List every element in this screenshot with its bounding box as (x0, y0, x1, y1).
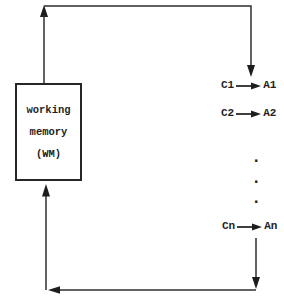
ellipsis-dot: . (252, 150, 260, 164)
flow-line-top (44, 6, 251, 66)
wm-to-productions-arrow (40, 5, 255, 84)
arrowhead-down-icon (252, 277, 260, 289)
production-row: C1 A1 (221, 79, 276, 92)
action-label: A1 (263, 79, 276, 92)
condition-label: C2 (221, 107, 234, 120)
maps-to-arrow-icon (236, 81, 261, 91)
wm-label-line-1: working (26, 104, 70, 116)
working-memory-box: working memory (WM) (15, 83, 82, 181)
ellipsis-dot: . (252, 191, 260, 205)
arrowhead-down-icon (247, 65, 255, 77)
condition-label: C1 (221, 79, 234, 92)
wm-label-line-3: (WM) (36, 148, 61, 160)
arrowhead-left-icon (48, 286, 60, 294)
production-row: C2 A2 (221, 107, 276, 120)
production-row: Cn An (222, 220, 277, 233)
ellipsis-dot: . (252, 171, 260, 185)
wm-label-line-2: memory (30, 126, 68, 138)
condition-label: Cn (222, 220, 235, 233)
production-system-diagram: working memory (WM) C1 A1 C2 A2 Cn An . … (0, 0, 284, 303)
action-label: A2 (263, 107, 276, 120)
productions-to-wm-arrow (42, 184, 260, 294)
arrowhead-up-icon (42, 184, 50, 197)
maps-to-arrow-icon (236, 109, 261, 119)
maps-to-arrow-icon (237, 222, 262, 232)
action-label: An (264, 220, 277, 233)
